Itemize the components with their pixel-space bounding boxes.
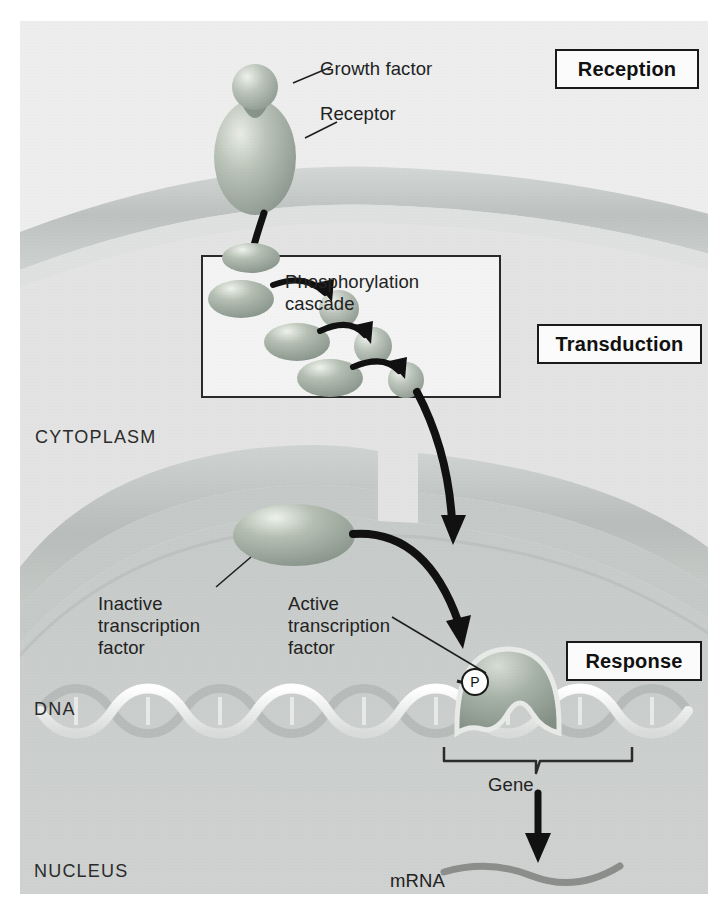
label-dna: DNA [34,699,76,720]
label-phosphorylation-cascade: Phosphorylation cascade [285,271,419,315]
stage-label-transduction: Transduction [537,324,702,364]
label-nucleus: NUCLEUS [34,861,128,882]
label-mrna: mRNA [390,870,445,892]
illustration-artwork [20,21,708,894]
label-active-transcription-factor: Active transcription factor [288,593,390,659]
stage-label-response: Response [566,641,702,681]
growth-factor-shape [232,64,278,110]
inactive-transcription-factor-shape [233,504,355,566]
stage-label-reception: Reception [555,49,699,89]
phosphate-group-badge: P [461,668,489,696]
label-inactive-transcription-factor: Inactive transcription factor [98,593,200,659]
cell-signaling-illustration: Reception Transduction Response Growth f… [20,21,708,894]
figure-canvas: Reception Transduction Response Growth f… [0,0,726,914]
relay-molecule-top [222,243,280,273]
relay-kinase-1 [208,280,274,318]
label-growth-factor: Growth factor [320,58,432,80]
label-gene: Gene [488,774,534,796]
label-cytoplasm: CYTOPLASM [35,427,157,448]
label-receptor: Receptor [320,103,396,125]
